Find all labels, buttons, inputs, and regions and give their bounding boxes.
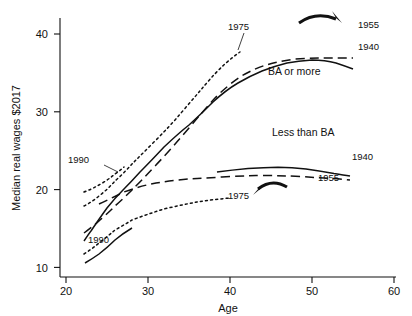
annotation-lower-1990: 1990 bbox=[88, 234, 109, 245]
annotation-lower-1975: 1975 bbox=[228, 190, 249, 201]
y-tick-label-20: 20 bbox=[36, 184, 48, 196]
y-axis-title: Median real wages $2017 bbox=[10, 85, 22, 211]
chart-container: 10 20 30 40 20 30 40 50 60 Age Median re… bbox=[0, 0, 412, 316]
x-tick-label-20: 20 bbox=[60, 285, 72, 297]
x-tick-label-40: 40 bbox=[224, 285, 236, 297]
leader-upper-1990 bbox=[104, 165, 118, 172]
label-ba-or-more: BA or more bbox=[268, 65, 321, 77]
x-tick-label-50: 50 bbox=[306, 285, 318, 297]
series-line-ba-1940 bbox=[84, 60, 353, 241]
annotation-upper-1940: 1940 bbox=[358, 41, 379, 52]
series-line-ba-1990 bbox=[84, 167, 124, 192]
annotation-upper-1975: 1975 bbox=[228, 21, 249, 32]
arrow-lower-curve bbox=[258, 183, 287, 189]
series-line-ba-1955 bbox=[84, 58, 353, 233]
x-axis-title: Age bbox=[218, 302, 238, 314]
annotation-upper-1955: 1955 bbox=[358, 19, 379, 30]
annotation-leaders bbox=[104, 33, 244, 172]
series-line-lessba-1975 bbox=[84, 198, 230, 254]
annotation-upper-1990: 1990 bbox=[68, 154, 89, 165]
annotation-lower-1955: 1955 bbox=[318, 172, 339, 183]
y-tick-label-30: 30 bbox=[36, 106, 48, 118]
series-line-lessba-1955 bbox=[99, 176, 350, 205]
leader-upper-1975 bbox=[238, 33, 244, 50]
annotation-lower-1940: 1940 bbox=[352, 151, 373, 162]
arrow-upper-curve bbox=[299, 16, 336, 23]
series-group-less-than-ba bbox=[84, 167, 350, 263]
y-tick-label-10: 10 bbox=[36, 262, 48, 274]
x-tick-label-60: 60 bbox=[388, 285, 400, 297]
series-group-ba-or-more bbox=[84, 52, 353, 241]
x-tick-label-30: 30 bbox=[142, 285, 154, 297]
label-less-than-ba: Less than BA bbox=[272, 126, 334, 138]
wage-age-line-chart: 10 20 30 40 20 30 40 50 60 Age Median re… bbox=[0, 0, 412, 316]
y-tick-label-40: 40 bbox=[36, 28, 48, 40]
arrow-lower-head bbox=[253, 184, 266, 195]
series-line-ba-1975 bbox=[84, 52, 240, 206]
